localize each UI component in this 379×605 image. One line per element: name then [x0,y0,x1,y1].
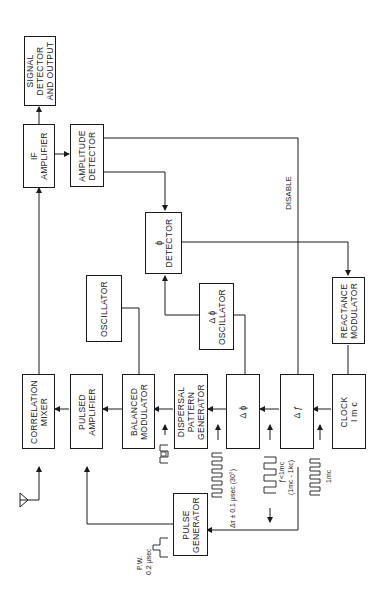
block-label: DISPERSAL [176,384,186,440]
signal-detector-and-output-block: SIGNALDETECTORAND OUTPUT [24,36,56,106]
if-amplifier-block: IFAMPLIFIER [23,124,55,188]
block-label: Δ ƒ [292,405,302,418]
delta-phi-oscillator-block: Δ ϕOSCILLATOR [199,283,234,350]
block-label: IF [29,132,39,180]
delta-phi-block: Δ ϕ [226,374,260,449]
reactance-modulator-block: REACTANCEMODULATOR [332,277,365,344]
block-label: DETECTOR [87,130,97,181]
block-label: DETECTOR [35,42,45,100]
balanced-modulator-block: BALANCEDMODULATOR [122,374,155,449]
block-label: OSCILLATOR [217,288,227,344]
oscillator-block: OSCILLATOR [86,275,122,342]
block-label: PATTERN [186,384,196,440]
block-label: Δ ϕ [207,288,217,344]
block-label: MIXER [39,379,49,443]
block-label: AND OUTPUT [45,42,55,100]
dispersal-pattern-generator-block: DISPERSALPATTERNGENERATOR [174,374,208,449]
block-label: I m c [349,396,359,427]
disable-label: DISABLE [285,176,293,210]
f-lt-1mc-label: ƒ<1mc [278,462,286,483]
block-label: MODULATOR [349,282,359,338]
block-label: OSCILLATOR [99,280,109,336]
block-label: GENERATOR [196,384,206,440]
pulse-generator-block: PULSEGENERATOR [173,493,208,556]
block-label: AMPLIFIER [87,388,97,436]
block-label: ϕ [154,219,164,268]
block-label: SIGNAL [25,42,35,100]
block-label: REACTANCE [339,282,349,338]
block-label: PULSE [181,497,191,553]
block-label: MODULATOR [139,383,149,439]
pulse-width-label: P.W. [136,556,144,570]
block-label: DETECTOR [164,219,174,268]
phi-detector-block: ϕDETECTOR [145,212,182,274]
block-label: BALANCED [129,383,139,439]
block-label: GENERATOR [191,497,201,553]
correlation-mixer-block: CORRELATIONMIXER [22,374,55,449]
pulse-width-value-label: 0.2 μsec [145,548,153,575]
block-label: Δ ϕ [238,405,248,418]
block-label: PULSED [77,388,87,436]
block-label: CLOCK [339,396,349,427]
clock-block: CLOCKI m c [332,374,366,449]
delta-f-block: Δ ƒ [280,374,314,449]
block-label: AMPLIFIER [39,132,49,180]
delta-tau-label: Δτ ± 0.1 μsec (30°) [229,469,237,528]
block-label: AMPLITUDE [77,130,87,181]
f-range-label: (1mc - 1kc) [287,460,295,495]
block-label: CORRELATION [29,379,39,443]
amplitude-detector-block: AMPLITUDEDETECTOR [70,124,104,187]
pulsed-amplifier-block: PULSEDAMPLIFIER [70,374,103,449]
clock-1mc-label: 1mc [325,470,333,483]
